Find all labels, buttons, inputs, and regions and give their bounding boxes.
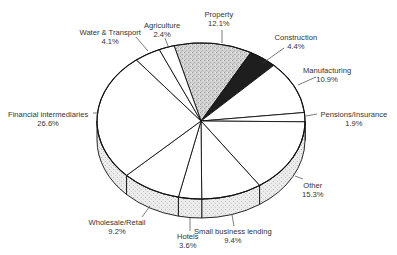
slice-label-percent: 2.4% [144, 30, 180, 39]
slice-label-name: Small business lending [194, 227, 272, 236]
slice-label: Small business lending9.4% [194, 227, 272, 245]
leader-line [295, 176, 303, 179]
slice-label-name: Financial intermediaries [8, 110, 88, 119]
slice-label-percent: 10.9% [303, 75, 351, 84]
slice-label-name: Pensions/Insurance [321, 110, 388, 119]
slice-label-percent: 1.9% [321, 119, 388, 128]
slice-label: Other15.3% [302, 181, 324, 199]
slice-label-percent: 15.3% [302, 190, 324, 199]
slice-label-percent: 12.1% [205, 19, 234, 28]
slice-label-name: Hotels [177, 232, 199, 241]
slice-side-hotels [178, 197, 201, 218]
slice-label: Pensions/Insurance1.9% [321, 110, 388, 128]
slice-label: Wholesale/Retail9.2% [89, 218, 146, 236]
leader-line [165, 38, 168, 46]
slice-label: Manufacturing10.9% [303, 66, 351, 84]
slice-label: Construction4.4% [275, 33, 318, 51]
leader-line [232, 215, 234, 226]
slice-label-percent: 4.1% [80, 37, 141, 46]
pie-top-surface [97, 43, 305, 199]
slice-label-percent: 3.6% [177, 241, 199, 250]
slice-label-percent: 9.2% [89, 227, 146, 236]
slice-label: Property12.1% [205, 10, 234, 28]
slice-label-name: Other [302, 181, 324, 190]
leader-line [306, 114, 317, 116]
slice-label-name: Agriculture [144, 21, 180, 30]
leader-line [142, 206, 150, 217]
slice-label-name: Wholesale/Retail [89, 218, 146, 227]
slice-label: Agriculture2.4% [144, 21, 180, 39]
slice-label-name: Property [205, 10, 234, 19]
slice-label-percent: 4.4% [275, 42, 318, 51]
slice-label: Hotels3.6% [177, 232, 199, 250]
slice-label-name: Manufacturing [303, 66, 351, 75]
slice-label-name: Water & Transport [80, 28, 141, 37]
slice-label-name: Construction [275, 33, 318, 42]
slice-label-percent: 9.4% [194, 236, 272, 245]
slice-label-percent: 26.6% [8, 119, 88, 128]
slice-label: Financial intermediaries26.6% [8, 110, 88, 128]
slice-label: Water & Transport4.1% [80, 28, 141, 46]
